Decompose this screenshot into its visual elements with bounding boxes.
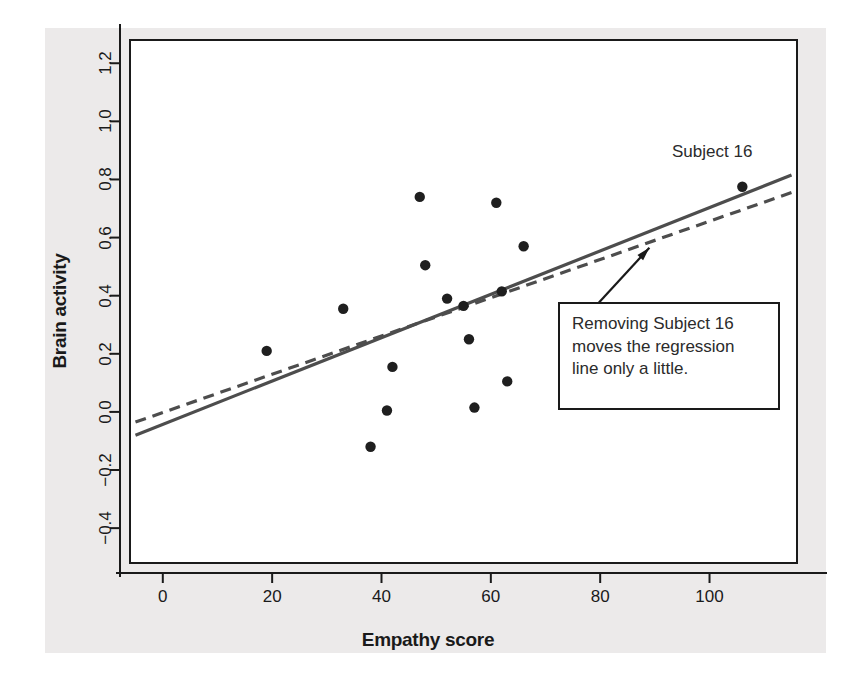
- y-tick-label: 0.6: [96, 208, 116, 268]
- data-point: [365, 442, 375, 452]
- subject-16-annotation-label: Subject 16: [672, 142, 752, 162]
- y-tick-label: −0.2: [96, 440, 116, 500]
- data-point: [382, 405, 392, 415]
- callout-line-2: moves the regression: [572, 336, 766, 359]
- x-axis: [116, 573, 827, 583]
- y-tick-label: 1.0: [96, 91, 116, 151]
- x-tick-label: 20: [242, 587, 302, 607]
- y-tick-label: 0.8: [96, 149, 116, 209]
- x-tick-label: 100: [680, 587, 740, 607]
- data-point: [458, 301, 468, 311]
- figure-container: 020406080100−0.4−0.20.00.20.40.60.81.01.…: [0, 0, 856, 679]
- x-tick-label: 60: [461, 587, 521, 607]
- data-point: [491, 198, 501, 208]
- data-point: [464, 334, 474, 344]
- y-axis-title: Brain activity: [49, 101, 71, 521]
- data-point: [387, 362, 397, 372]
- data-point: [469, 402, 479, 412]
- data-point: [420, 260, 430, 270]
- y-tick-label: 0.4: [96, 266, 116, 326]
- data-point: [502, 376, 512, 386]
- data-point: [261, 346, 271, 356]
- data-point: [518, 241, 528, 251]
- data-point: [442, 293, 452, 303]
- x-tick-label: 40: [351, 587, 411, 607]
- callout-line-1: Removing Subject 16: [572, 313, 766, 336]
- data-point: [737, 182, 747, 192]
- y-tick-label: −0.4: [96, 498, 116, 558]
- callout-textbox: Removing Subject 16 moves the regression…: [558, 302, 780, 410]
- data-point: [415, 192, 425, 202]
- x-axis-title: Empathy score: [0, 629, 856, 651]
- y-tick-label: 0.0: [96, 382, 116, 442]
- x-tick-label: 0: [133, 587, 193, 607]
- data-point: [497, 286, 507, 296]
- callout-line-3: line only a little.: [572, 358, 766, 381]
- y-tick-label: 1.2: [96, 33, 116, 93]
- data-point: [338, 304, 348, 314]
- x-tick-label: 80: [570, 587, 630, 607]
- y-tick-label: 0.2: [96, 324, 116, 384]
